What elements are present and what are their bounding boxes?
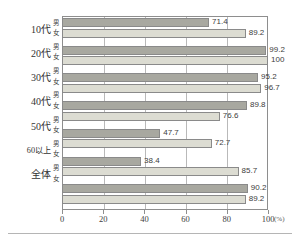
category-name: 30代 xyxy=(31,69,51,84)
bar-value-label: 89.2 xyxy=(249,28,265,37)
bar-group: 99.2100 xyxy=(62,44,268,68)
sex-label-male: 男 xyxy=(53,115,60,126)
x-axis-labels: (%) 020406080100 xyxy=(0,214,300,228)
category-name: 10代 xyxy=(31,21,51,36)
sex-label-pair: 男 女 xyxy=(53,66,60,88)
bar-value-label: 76.6 xyxy=(223,111,239,120)
bar-female xyxy=(62,195,246,204)
sex-label-female: 女 xyxy=(53,101,60,112)
bar-female xyxy=(62,56,268,65)
category-label-4: 50代 男 女 xyxy=(0,113,62,137)
bar-male xyxy=(62,184,248,193)
x-tick-label: 100 xyxy=(262,214,275,224)
category-axis-labels: 10代 男 女 20代 男 女 30代 男 女 40代 男 女 xyxy=(0,16,62,210)
sex-label-pair: 男 女 xyxy=(53,90,60,112)
bar-value-label: 89.2 xyxy=(249,194,265,203)
category-name: 全体 xyxy=(31,166,51,181)
bar-male xyxy=(62,101,247,110)
category-label-5: 60以上 男 女 xyxy=(0,137,62,161)
bar-value-label: 100 xyxy=(271,55,284,64)
bar-value-label: 85.7 xyxy=(242,166,258,175)
sex-label-male: 男 xyxy=(53,66,60,77)
category-label-6: 全体 男 女 xyxy=(0,162,62,186)
sex-label-male: 男 xyxy=(53,42,60,53)
bar-male xyxy=(62,18,209,27)
bar-value-label: 72.7 xyxy=(215,138,231,147)
bar-group: 95.296.7 xyxy=(62,71,268,95)
x-tick-label: 80 xyxy=(223,214,232,224)
sex-label-male: 男 xyxy=(53,139,60,150)
category-label-2: 30代 男 女 xyxy=(0,65,62,89)
bar-female xyxy=(62,167,239,176)
bar-male xyxy=(62,129,160,138)
x-tick-label: 20 xyxy=(99,214,108,224)
sex-label-male: 男 xyxy=(53,90,60,101)
bar-value-label: 96.7 xyxy=(264,83,280,92)
bar-male xyxy=(62,46,266,55)
bar-value-label: 95.2 xyxy=(261,72,277,81)
bar-group: 89.876.6 xyxy=(62,99,268,123)
sex-label-female: 女 xyxy=(53,125,60,136)
bar-group: 71.489.2 xyxy=(62,16,268,40)
x-axis-unit: (%) xyxy=(274,215,285,223)
sex-label-female: 女 xyxy=(53,149,60,160)
x-tick-label: 40 xyxy=(140,214,149,224)
bar-value-label: 89.8 xyxy=(250,100,266,109)
bar-value-label: 47.7 xyxy=(163,128,179,137)
bar-groups: 71.489.299.210095.296.789.876.647.772.73… xyxy=(62,16,268,210)
bar-male xyxy=(62,157,141,166)
bar-value-label: 38.4 xyxy=(144,156,160,165)
bar-female xyxy=(62,84,261,93)
x-tick-label: 0 xyxy=(60,214,64,224)
sex-label-male: 男 xyxy=(53,18,60,29)
category-label-1: 20代 男 女 xyxy=(0,40,62,64)
bar-female xyxy=(62,139,212,148)
x-tick-label: 60 xyxy=(181,214,190,224)
bar-female xyxy=(62,112,220,121)
bar-male xyxy=(62,73,258,82)
category-name: 20代 xyxy=(31,45,51,60)
bar-value-label: 99.2 xyxy=(269,45,285,54)
sex-label-pair: 男 女 xyxy=(53,163,60,185)
sex-label-pair: 男 女 xyxy=(53,41,60,63)
category-name: 60以上 xyxy=(27,143,51,155)
sex-label-male: 男 xyxy=(53,163,60,174)
category-name: 50代 xyxy=(31,118,51,133)
bar-female xyxy=(62,29,246,38)
sex-label-pair: 男 女 xyxy=(53,17,60,39)
sex-label-female: 女 xyxy=(53,28,60,39)
category-label-3: 40代 男 女 xyxy=(0,89,62,113)
sex-label-pair: 男 女 xyxy=(53,138,60,160)
sex-label-female: 女 xyxy=(53,52,60,63)
sex-label-pair: 男 女 xyxy=(53,114,60,136)
bar-value-label: 90.2 xyxy=(251,183,267,192)
bar-group: 90.289.2 xyxy=(62,182,268,206)
sex-label-female: 女 xyxy=(53,174,60,185)
bar-group: 47.772.7 xyxy=(62,127,268,151)
bottom-divider xyxy=(8,233,292,234)
bar-group: 38.485.7 xyxy=(62,155,268,179)
category-name: 40代 xyxy=(31,93,51,108)
bar-value-label: 71.4 xyxy=(212,17,228,26)
sex-label-female: 女 xyxy=(53,77,60,88)
category-label-0: 10代 男 女 xyxy=(0,16,62,40)
horizontal-bar-chart: 10代 男 女 20代 男 女 30代 男 女 40代 男 女 xyxy=(0,0,300,239)
